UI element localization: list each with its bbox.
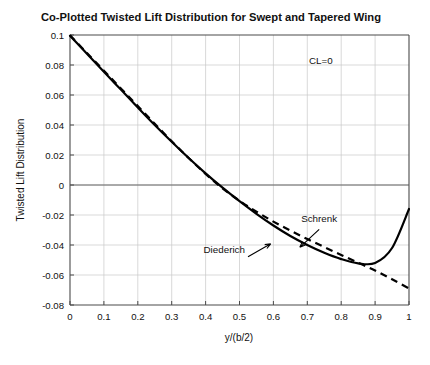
annotation-layer: CL=0 Schrenk Diederich (204, 55, 338, 256)
x-tick-label: 0 (67, 311, 72, 322)
y-tick-label: 0.02 (45, 150, 64, 161)
annotation-cl-zero: CL=0 (309, 55, 333, 66)
y-tick-label: 0.04 (45, 120, 64, 131)
x-tick-label: 1 (406, 311, 411, 322)
chart-figure: Co-Plotted Twisted Lift Distribution for… (0, 0, 430, 365)
x-tick-label: 0.3 (165, 311, 178, 322)
x-tick-labels: 00.10.20.30.40.50.60.70.80.91 (67, 311, 411, 322)
y-axis-label: Twisted Lift Distribution (15, 119, 26, 222)
y-tick-label: 0 (59, 180, 64, 191)
y-tick-label: -0.06 (42, 270, 64, 281)
leader-arrow-schrenk (300, 229, 319, 247)
y-tick-label: 0.08 (45, 60, 64, 71)
x-tick-label: 0.9 (368, 311, 381, 322)
grid-layer (70, 35, 409, 305)
y-tick-label: -0.08 (42, 300, 64, 311)
leader-arrow-diederich (248, 244, 271, 257)
y-tick-labels: 0.10.080.060.040.020-0.02-0.04-0.06-0.08 (42, 30, 65, 311)
x-axis-label: y/(b/2) (225, 332, 253, 343)
twisted-lift-distribution-chart: Co-Plotted Twisted Lift Distribution for… (0, 0, 430, 365)
chart-title: Co-Plotted Twisted Lift Distribution for… (41, 11, 381, 23)
x-tick-label: 0.8 (335, 311, 348, 322)
x-tick-label: 0.7 (301, 311, 314, 322)
annotation-schrenk-label: Schrenk (301, 213, 337, 224)
y-tick-label: 0.1 (51, 30, 64, 41)
y-tick-label: 0.06 (45, 90, 64, 101)
x-tick-label: 0.6 (267, 311, 280, 322)
x-tick-label: 0.1 (97, 311, 110, 322)
y-tick-label: -0.04 (42, 240, 65, 251)
y-tick-label: -0.02 (42, 210, 64, 221)
x-tick-label: 0.4 (199, 311, 213, 322)
annotation-diederich-label: Diederich (204, 244, 245, 255)
x-tick-label: 0.2 (131, 311, 144, 322)
x-tick-label: 0.5 (233, 311, 246, 322)
